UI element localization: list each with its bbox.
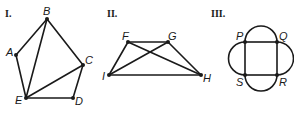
graph-figures: I. B A C E D II. F G I H I xyxy=(0,0,294,116)
arc-SP xyxy=(229,42,246,75)
vertex-label-G: G xyxy=(168,30,177,42)
vertex-label-S: S xyxy=(236,76,244,88)
edge-GH xyxy=(168,42,201,75)
vertex-label-D: D xyxy=(75,95,83,107)
arc-PQ xyxy=(245,26,277,42)
vertex-label-A: A xyxy=(5,46,13,58)
figure-1-label: I. xyxy=(5,8,12,19)
edge-BC xyxy=(47,19,83,65)
vertex-label-C: C xyxy=(85,54,93,66)
vertex-I xyxy=(107,73,111,77)
vertex-label-P: P xyxy=(236,30,244,42)
vertex-label-R: R xyxy=(279,76,287,88)
vertex-label-B: B xyxy=(43,5,50,17)
vertex-label-I: I xyxy=(102,70,105,82)
figure-3: III. P Q S R xyxy=(211,8,294,91)
vertex-E xyxy=(24,96,28,100)
vertex-P xyxy=(243,40,247,44)
arc-QR xyxy=(277,42,294,75)
vertex-B xyxy=(45,17,49,21)
vertex-label-E: E xyxy=(15,94,23,106)
arc-RS xyxy=(245,75,277,91)
edge-EA xyxy=(16,55,26,98)
vertex-A xyxy=(14,53,18,57)
vertex-S xyxy=(243,73,247,77)
vertex-label-Q: Q xyxy=(279,30,288,42)
vertex-label-H: H xyxy=(203,72,211,84)
square-PQRS xyxy=(245,42,277,75)
figure-2: II. F G I H xyxy=(102,8,211,84)
figure-3-label: III. xyxy=(211,8,226,19)
figure-1: I. B A C E D xyxy=(5,5,93,107)
figure-2-label: II. xyxy=(107,8,118,19)
